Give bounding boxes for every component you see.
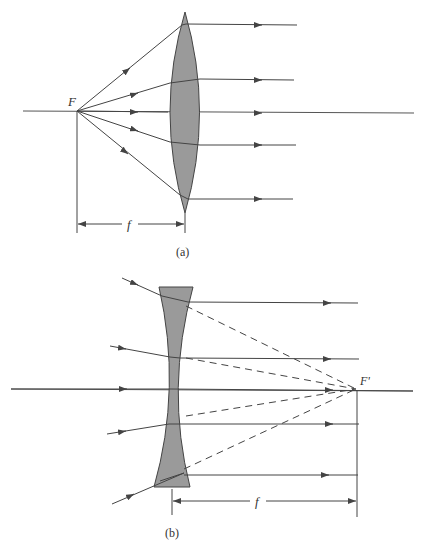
refracted-rays-b [170,302,413,475]
refracted-ray-arrows-b [322,303,333,475]
converging-lens [170,12,200,213]
figure-a-converging-lens: F f (a) [23,12,414,259]
focal-point-label-a: F [67,94,77,109]
caption-a: (a) [176,245,189,259]
focal-point-label-b: F' [359,374,370,388]
caption-b: (b) [165,526,179,540]
focal-length-label-a: f [127,217,133,232]
diverging-lens [154,287,193,487]
focal-length-label-b: f [255,494,261,509]
incident-rays-a [77,25,182,195]
figure-b-diverging-lens: F' f (b) [11,278,413,540]
lens-diagram: F f (a) [0,0,424,552]
virtual-rays-b [184,306,356,469]
incident-ray-arrows [123,68,138,154]
